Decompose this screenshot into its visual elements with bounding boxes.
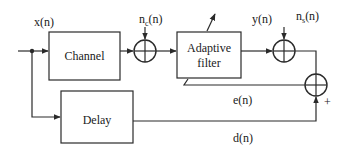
channel-block: Channel — [49, 32, 120, 80]
delay-label: Delay — [83, 113, 112, 127]
desired-label: d(n) — [233, 131, 253, 145]
channel-noise-label: nc(n) — [139, 12, 163, 28]
input-label: x(n) — [34, 15, 54, 29]
summing-junction-3 — [305, 74, 327, 96]
channel-label: Channel — [65, 49, 106, 63]
desired-signal-line — [133, 97, 316, 121]
sensor-noise-label: ns(n) — [296, 9, 319, 25]
adaptive-filter-block-diagram: x(n) Channel nc(n) Adaptive filter y(n) … — [0, 0, 351, 153]
error-label: e(n) — [233, 93, 252, 107]
summing-junction-2 — [273, 40, 295, 62]
delay-block: Delay — [61, 91, 133, 143]
input-signal-line — [18, 49, 48, 53]
adaptation-arrow — [207, 14, 215, 31]
filter-output-label: y(n) — [252, 12, 272, 26]
error-feedback-line — [184, 79, 305, 85]
sum2-to-sum3-line — [295, 51, 316, 74]
plus-sign: + — [324, 95, 331, 109]
adaptive-filter-label-line1: Adaptive — [187, 41, 231, 55]
summing-junction-1 — [134, 40, 156, 62]
adaptive-filter-block: Adaptive filter — [177, 32, 241, 78]
adaptive-filter-label-line2: filter — [197, 56, 220, 70]
